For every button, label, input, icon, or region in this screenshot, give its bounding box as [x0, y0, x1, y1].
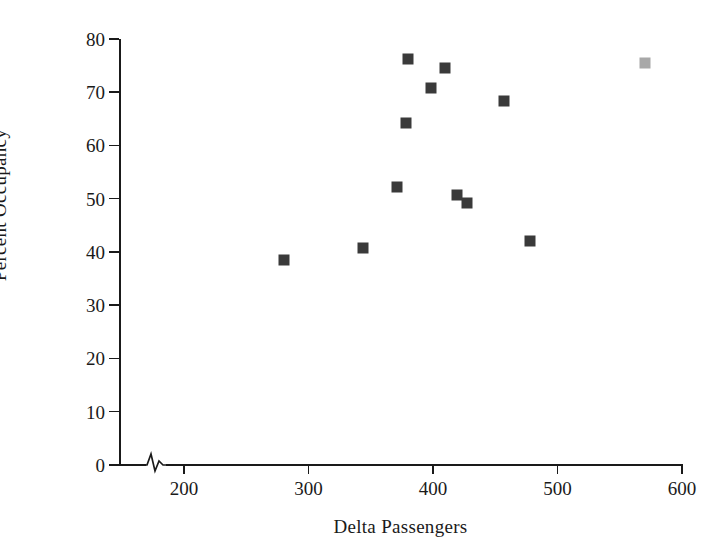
scatter-plot-figure: Percent Occupancy Delta Passengers 01020… [0, 0, 720, 558]
y-axis-tick-label-text: 30 [86, 295, 105, 317]
y-axis-tick [109, 464, 119, 466]
data-point-marker [403, 53, 414, 64]
y-axis-tick-label-text: 50 [86, 189, 105, 211]
x-axis-tick-label-text: 500 [543, 478, 572, 500]
y-axis-tick-label-text: 40 [86, 242, 105, 264]
y-axis-tick-label-text: 20 [86, 348, 105, 370]
x-axis-tick-label-text: 400 [419, 478, 448, 500]
data-point-marker [358, 243, 369, 254]
y-axis-tick [109, 251, 119, 253]
data-point-marker [278, 254, 289, 265]
x-axis-tick [681, 464, 683, 474]
y-axis-tick [109, 91, 119, 93]
data-point-marker [391, 182, 402, 193]
y-axis-tick [109, 38, 119, 40]
x-axis-tick [308, 464, 310, 474]
data-point-marker [440, 63, 451, 74]
y-axis-tick-label-text: 0 [96, 455, 106, 477]
y-axis-tick [109, 358, 119, 360]
data-point-marker [425, 83, 436, 94]
data-point-marker [525, 235, 536, 246]
data-point-marker [498, 96, 509, 107]
y-axis-tick [109, 198, 119, 200]
x-axis-tick-label-text: 600 [668, 478, 697, 500]
plot-area: 01020304050607080200300400500600 [0, 0, 720, 558]
y-axis-tick-label-text: 60 [86, 135, 105, 157]
data-point-marker [461, 198, 472, 209]
x-axis-tick [557, 464, 559, 474]
y-axis-tick-label-text: 10 [86, 402, 105, 424]
data-point-marker [639, 57, 650, 68]
y-axis-tick-label-text: 70 [86, 82, 105, 104]
y-axis-tick [109, 411, 119, 413]
y-axis-tick [109, 145, 119, 147]
x-axis-tick [432, 464, 434, 474]
y-axis-tick [109, 304, 119, 306]
data-point-marker [400, 117, 411, 128]
x-axis-tick [183, 464, 185, 474]
x-axis-tick-label-text: 200 [170, 478, 199, 500]
y-axis-tick-label-text: 80 [86, 29, 105, 51]
x-axis-tick-label-text: 300 [294, 478, 323, 500]
